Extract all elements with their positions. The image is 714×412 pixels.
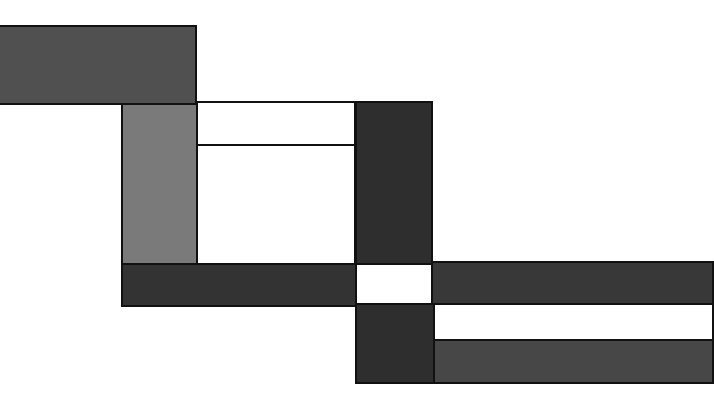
- lower-dark-column: [355, 303, 435, 384]
- left-gray-column: [121, 103, 198, 265]
- right-dark-band: [431, 261, 714, 305]
- left-dark-band: [121, 263, 357, 307]
- right-white-strip: [433, 303, 714, 341]
- top-left-dark-rect: [0, 25, 197, 105]
- lower-white-panel: [196, 144, 356, 265]
- upper-white-panel: [196, 101, 356, 146]
- center-dark-column: [355, 101, 433, 265]
- center-white-square: [355, 263, 433, 305]
- bottom-right-gray-band: [433, 339, 714, 384]
